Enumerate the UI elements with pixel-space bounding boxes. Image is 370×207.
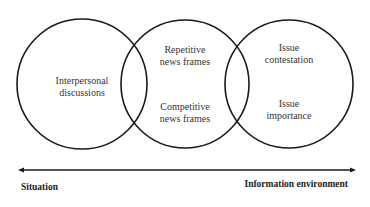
circle-middle — [121, 20, 249, 148]
arrow-left-head-icon — [18, 168, 24, 173]
double-arrow-axis — [18, 168, 356, 173]
label-line: Competitive — [160, 101, 210, 113]
circle-information-environment — [225, 20, 353, 148]
label-line: Issue — [265, 42, 313, 54]
label-line: importance — [267, 110, 312, 122]
axis-label-information-environment: Information environment — [244, 179, 348, 189]
issue-importance-label: Issue importance — [267, 98, 312, 121]
arrow-right-head-icon — [350, 168, 356, 173]
label-line: news frames — [160, 113, 210, 125]
axis-label-situation: Situation — [21, 182, 58, 192]
competitive-news-frames-label: Competitive news frames — [160, 101, 210, 124]
label-line: discussions — [56, 87, 109, 99]
repetitive-news-frames-label: Repetitive news frames — [160, 44, 210, 67]
issue-contestation-label: Issue contestation — [265, 42, 313, 65]
label-line: Repetitive — [160, 44, 210, 56]
label-line: contestation — [265, 54, 313, 66]
label-line: news frames — [160, 56, 210, 68]
label-line: Interpersonal — [56, 75, 109, 87]
interpersonal-discussions-label: Interpersonal discussions — [56, 75, 109, 98]
label-line: Issue — [267, 98, 312, 110]
